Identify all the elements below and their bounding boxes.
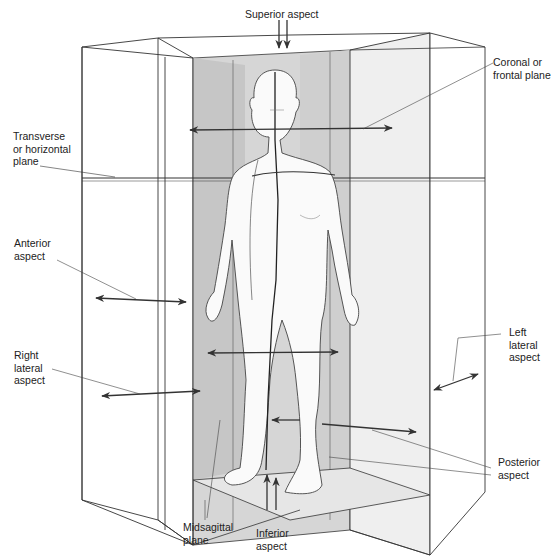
label-inferior-aspect: Inferior aspect	[256, 527, 289, 552]
label-posterior-aspect: Posterior aspect	[498, 456, 540, 481]
label-midsagittal-plane: Midsagittal plane	[183, 521, 233, 546]
diagram-illustration	[0, 0, 559, 559]
anatomical-planes-diagram: Superior aspect Coronal or frontal plane…	[0, 0, 559, 559]
label-right-lateral-aspect: Right lateral aspect	[14, 349, 45, 387]
label-transverse-plane: Transverse or horizontal plane	[13, 130, 71, 168]
label-superior-aspect: Superior aspect	[245, 8, 319, 21]
label-coronal-plane: Coronal or frontal plane	[493, 56, 551, 81]
label-anterior-aspect: Anterior aspect	[14, 237, 51, 262]
label-left-lateral-aspect: Left lateral aspect	[509, 326, 540, 364]
